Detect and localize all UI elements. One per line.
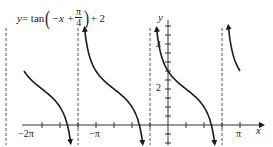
x-tick-label-neg-2pi: −2π [18, 128, 34, 139]
y-tick-label-2: 2 [156, 82, 161, 93]
x-axis-label: x [256, 124, 261, 136]
y-tick-label-4: 4 [156, 39, 161, 50]
y-axis-label: y [158, 11, 163, 23]
x-tick-label-neg-pi: −π [89, 128, 100, 139]
curve-branch [228, 27, 240, 71]
x-tick-label-pi: π [236, 128, 241, 139]
axes [22, 20, 262, 145]
tangent-plot [0, 0, 273, 147]
